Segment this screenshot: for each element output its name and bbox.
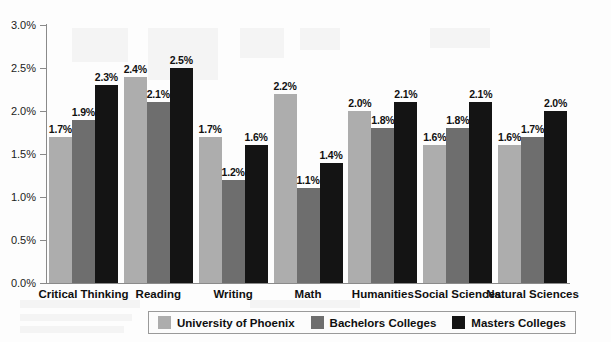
legend-swatch-icon [158,316,171,329]
bar-group: 1.7%1.9%2.3% [49,25,118,283]
bar-value-label: 1.7% [199,123,222,135]
bar-value-label: 1.9% [72,106,95,118]
x-axis-category-label: Writing [213,288,252,300]
scan-artifact [250,300,360,308]
y-axis-tick-label: 1.0% [0,191,36,203]
bar-value-label: 2.1% [394,88,417,100]
bar: 2.1% [147,102,170,283]
legend-item: Bachelors Colleges [311,316,437,329]
bar-value-label: 1.6% [498,131,521,143]
scan-artifact [20,326,124,333]
bar: 2.4% [124,77,147,283]
chart-legend: University of PhoenixBachelors CollegesM… [148,311,576,334]
bar-value-label: 2.2% [273,80,296,92]
bar-value-label: 2.0% [544,97,567,109]
bar-group: 2.2%1.1%1.4% [274,25,343,283]
bar-value-label: 1.2% [222,166,245,178]
legend-item: University of Phoenix [158,316,295,329]
bar-value-label: 1.6% [423,131,446,143]
bar: 1.1% [297,188,320,283]
bar: 1.6% [423,145,446,283]
bar: 2.2% [274,94,297,283]
bar-value-label: 2.0% [348,97,371,109]
legend-label: Bachelors Colleges [330,317,437,329]
bar-group: 2.4%2.1%2.5% [124,25,193,283]
bar-value-label: 2.4% [124,63,147,75]
legend-item: Masters Colleges [452,316,566,329]
bar: 1.6% [245,145,268,283]
legend-label: Masters Colleges [471,317,566,329]
y-axis-tick-label: 3.0% [0,19,36,31]
bar: 1.8% [371,128,394,283]
bar: 2.3% [95,85,118,283]
bar: 1.8% [446,128,469,283]
y-axis-tick-label: 0.0% [0,277,36,289]
bar: 2.1% [394,102,417,283]
bar-value-label: 2.1% [147,88,170,100]
bar-chart: 0.0%0.5%1.0%1.5%2.0%2.5%3.0% 1.7%1.9%2.3… [0,0,611,342]
plot-area: 1.7%1.9%2.3%2.4%2.1%2.5%1.7%1.2%1.6%2.2%… [46,25,570,283]
bar-value-label: 1.6% [245,131,268,143]
x-axis-category-label: Humanities [352,288,414,300]
bar: 2.0% [348,111,371,283]
bar: 1.4% [320,163,343,283]
scan-artifact [20,314,132,321]
bar-group: 1.6%1.7%2.0% [498,25,567,283]
y-axis-tick [40,283,46,284]
x-axis-category-label: Critical Thinking [38,288,128,300]
bar: 2.0% [544,111,567,283]
legend-swatch-icon [452,316,465,329]
bar-value-label: 1.4% [319,149,342,161]
y-axis-tick-label: 2.5% [0,62,36,74]
bar-value-label: 1.8% [371,114,394,126]
bar-group: 1.6%1.8%2.1% [423,25,492,283]
bar: 1.7% [199,137,222,283]
bar: 1.7% [49,137,72,283]
bar: 1.2% [222,180,245,283]
x-axis-category-label: Natural Sciences [486,288,579,300]
x-axis-category-label: Math [295,288,322,300]
legend-swatch-icon [311,316,324,329]
y-axis-tick-label: 0.5% [0,234,36,246]
bar: 2.1% [469,102,492,283]
bar-value-label: 2.3% [95,71,118,83]
scan-artifact [20,300,140,308]
legend-label: University of Phoenix [177,317,295,329]
bar-group: 2.0%1.8%2.1% [348,25,417,283]
y-axis-tick-label: 1.5% [0,148,36,160]
bar-value-label: 2.5% [170,54,193,66]
bar-value-label: 1.8% [446,114,469,126]
bar: 2.5% [170,68,193,283]
bar-value-label: 2.1% [469,88,492,100]
bar: 1.7% [521,137,544,283]
bar-value-label: 1.7% [521,123,544,135]
x-axis-category-label: Reading [136,288,181,300]
x-axis-line [46,283,570,284]
bar: 1.9% [72,120,95,283]
bar: 1.6% [498,145,521,283]
bar-value-label: 1.1% [296,174,319,186]
y-axis-tick-label: 2.0% [0,105,36,117]
bar-group: 1.7%1.2%1.6% [199,25,268,283]
bar-value-label: 1.7% [49,123,72,135]
